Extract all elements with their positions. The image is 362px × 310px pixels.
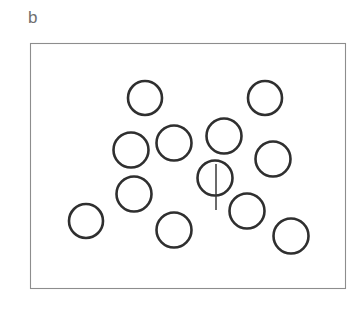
particle-circle	[128, 81, 162, 115]
figure-panel: b	[0, 0, 362, 310]
particle-circle	[69, 204, 103, 238]
particle-circle	[248, 81, 282, 115]
particle-circle	[114, 133, 149, 168]
particle-circle	[157, 126, 192, 161]
particle-circle	[256, 142, 291, 177]
scatter-plot-canvas	[0, 0, 362, 310]
particle-circle	[157, 213, 192, 248]
particle-circle	[230, 194, 265, 229]
particle-circle	[198, 161, 233, 196]
particle-circle	[274, 219, 309, 254]
particle-circle	[117, 177, 152, 212]
particle-circle	[207, 119, 242, 154]
